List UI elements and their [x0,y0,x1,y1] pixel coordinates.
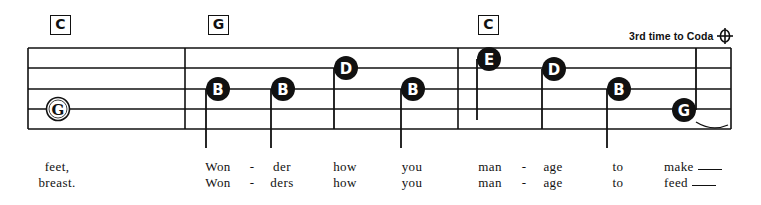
lyric-text: feed [664,175,688,190]
lyric-text: Won [205,175,230,190]
lyric-syllable: you [402,175,423,191]
lyric-syllable: breast. [38,175,75,191]
lyric-hyphen: - [250,175,255,191]
lyric-text: how [333,175,357,190]
lyric-text: - [522,175,527,190]
lyric-text: ders [270,175,293,190]
lyric-syllable: Won [205,175,230,191]
lyric-syllable: feed [664,175,716,191]
lyric-hyphen: - [522,175,527,191]
lyric-text: to [613,175,624,190]
lyrics-verse-2: breast.Won-dershowyouman-agetofeed [0,0,761,205]
lyric-syllable: age [543,175,562,191]
lyric-text: breast. [38,175,75,190]
lyric-syllable: man [478,175,502,191]
lyric-text: - [250,175,255,190]
lyric-extender-line [692,185,716,186]
lyric-text: age [543,175,562,190]
lyric-text: man [478,175,502,190]
lyric-syllable: how [333,175,357,191]
lyric-syllable: ders [270,175,293,191]
lyric-text: you [402,175,423,190]
lyric-syllable: to [613,175,624,191]
